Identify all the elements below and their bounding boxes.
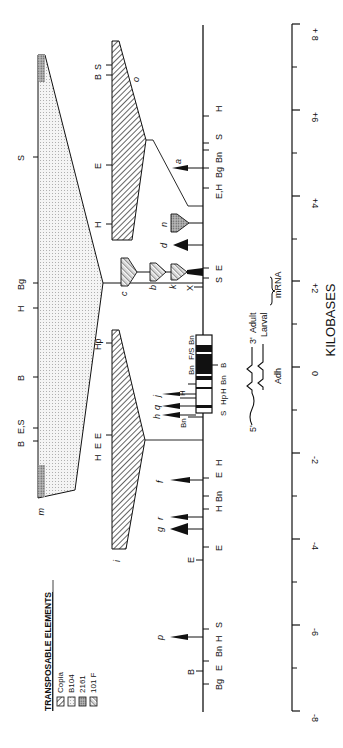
axis-tick-label: +6 xyxy=(310,112,320,122)
five-prime-label: 5' xyxy=(248,425,258,432)
site-label: H xyxy=(16,306,26,313)
site-label: E,H xyxy=(214,184,224,199)
site-label: H xyxy=(214,636,224,643)
insertion-h-arrow: h xyxy=(152,412,196,419)
insertion-label-b: b xyxy=(148,285,158,290)
site-label: B xyxy=(186,669,196,675)
kilobase-axis: + 8 +6 +4 +2 0 -2 -4 -6 -8 KILOBASES xyxy=(292,24,338,722)
site-label: E xyxy=(214,545,224,551)
insertion-j-arrow: j xyxy=(152,392,196,398)
site-label: B xyxy=(93,74,103,80)
site-label: H xyxy=(93,222,103,229)
site-label: S xyxy=(214,622,224,628)
site-label: Bg xyxy=(214,679,224,690)
axis-tick-label: -4 xyxy=(310,542,320,550)
site-label: Bn xyxy=(214,491,224,502)
site-label: Hp xyxy=(93,338,103,350)
site-label: H xyxy=(214,106,224,113)
site-label: Bg xyxy=(214,167,224,178)
site-label: S xyxy=(214,134,224,140)
insertion-g-arrow: g xyxy=(155,523,203,535)
three-prime-label: 3' xyxy=(248,337,258,344)
site-label: H xyxy=(214,460,224,467)
legend-swatch-copia xyxy=(57,697,64,706)
site-label: B xyxy=(219,363,228,368)
insertion-label-a: a xyxy=(173,159,183,164)
insertion-label-q: q xyxy=(152,405,162,410)
figure-canvas: + 8 +6 +4 +2 0 -2 -4 -6 -8 KILOBASES H S… xyxy=(0,0,343,748)
site-label: S xyxy=(16,155,26,161)
site-label: B xyxy=(16,375,26,381)
legend-label: 2161 xyxy=(78,675,87,693)
larval-transcript xyxy=(258,344,263,390)
site-label: Bn xyxy=(187,365,196,375)
site-label: S xyxy=(93,64,103,70)
site-label: Hp xyxy=(219,394,228,405)
site-label: Bn xyxy=(187,335,196,345)
legend-swatch-101f xyxy=(90,697,97,706)
site-label: Bn xyxy=(179,418,188,428)
insertion-q-arrow: q xyxy=(152,403,196,410)
site-label: E xyxy=(214,265,224,271)
axis-tick-label: -8 xyxy=(310,714,320,722)
adh-transcripts: 5' 3' Adult Larval Adh mRNA xyxy=(247,272,283,433)
transposon-n-2161: n xyxy=(159,214,203,232)
site-label: S xyxy=(219,411,228,416)
axis-tick-label: + 8 xyxy=(310,28,320,41)
site-label: H xyxy=(93,455,103,462)
transposon-b-101f: b xyxy=(148,263,166,290)
insertion-label-p: p xyxy=(155,635,165,641)
site-label: E,S xyxy=(16,419,26,434)
restriction-map-diagram: + 8 +6 +4 +2 0 -2 -4 -6 -8 KILOBASES H S… xyxy=(0,0,343,748)
axis-tick-label: +4 xyxy=(310,198,320,208)
larval-label: Larval xyxy=(259,312,269,337)
site-label: E xyxy=(214,665,224,671)
transposon-o-copia: o B S E H xyxy=(93,41,203,240)
site-label: F/S xyxy=(187,348,196,360)
insertion-a-arrow: a xyxy=(172,159,203,171)
site-label: Bn xyxy=(214,646,224,657)
legend-swatch-2161 xyxy=(79,697,86,706)
insertion-label-c: c xyxy=(119,291,129,296)
site-label: Bn xyxy=(214,152,224,163)
adh-gene-label: Adh xyxy=(273,368,283,384)
adult-transcript xyxy=(247,347,254,425)
site-label: H xyxy=(214,506,224,513)
legend-swatch-b104 xyxy=(68,697,75,706)
insertion-label-m: m xyxy=(36,508,46,516)
site-label: E xyxy=(214,472,224,478)
site-label: B xyxy=(16,441,26,447)
insertion-label-k: k xyxy=(168,284,178,289)
axis-tick-label: -6 xyxy=(310,628,320,636)
site-label: Bg xyxy=(16,279,26,290)
site-label: E xyxy=(93,163,103,169)
insertion-label-d: d xyxy=(159,242,169,248)
axis-tick-label: 0 xyxy=(310,371,320,376)
site-label: E xyxy=(93,433,103,439)
site-label: Bn xyxy=(219,375,228,385)
adult-label: Adult xyxy=(248,312,258,333)
site-label: E xyxy=(93,443,103,449)
insertion-label-j: j xyxy=(152,394,162,398)
insertion-label-f: f xyxy=(155,479,165,483)
mrna-label: mRNA xyxy=(273,272,283,299)
legend-title: TRANSPOSABLE ELEMENTS xyxy=(43,592,53,711)
legend-label: Copia xyxy=(56,672,65,693)
site-label: H xyxy=(219,388,228,394)
legend: TRANSPOSABLE ELEMENTS Copia B104 2161 10… xyxy=(43,580,98,711)
insertion-label-r: r xyxy=(155,516,165,520)
insertion-r-arrow: r xyxy=(155,514,203,520)
insertion-p-arrow: p xyxy=(155,634,203,641)
axis-tick-label: +2 xyxy=(310,283,320,293)
insertion-f-arrow: f xyxy=(155,477,203,483)
insertion-d-arrow: d xyxy=(159,239,203,251)
insertion-label-h: h xyxy=(152,414,162,419)
axis-tick-label: -2 xyxy=(310,456,320,464)
insertion-label-i: i xyxy=(112,559,122,562)
adh-gene-box xyxy=(196,335,212,413)
insertion-label-o: o xyxy=(131,77,141,82)
site-label: S xyxy=(214,277,224,283)
legend-label: 101 F xyxy=(89,672,98,693)
legend-label: B104 xyxy=(67,674,76,693)
site-label: E xyxy=(186,557,196,563)
